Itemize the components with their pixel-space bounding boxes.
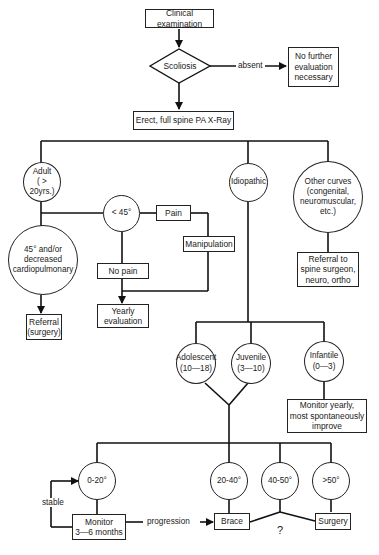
no-pain-box: No pain xyxy=(97,263,149,279)
monitor-yearly-box: Monitor yearly, most spontaneously impro… xyxy=(287,399,367,433)
surgery-box: Surgery xyxy=(315,513,351,530)
referral-spine-surgeon-box: Referral to spine surgeon, neuro, ortho xyxy=(297,252,359,287)
pain-box: Pain xyxy=(156,205,191,221)
brace-box: Brace xyxy=(214,513,250,530)
scoliosis-decision-label: Scoliosis xyxy=(152,61,208,71)
curve-0-20-circle: 0-20° xyxy=(78,462,116,500)
infantile-circle: Infantile (0—3) xyxy=(304,341,344,382)
lt45-circle: < 45° xyxy=(103,195,140,232)
clinical-examination-box: Clinical examination xyxy=(145,9,214,28)
monitor-3-6-months-box: Monitor 3—6 months xyxy=(72,514,126,540)
severe-curve-circle: 45° and/or decreased cardiopulmonary xyxy=(8,225,78,295)
manipulation-box: Manipulation xyxy=(183,236,235,252)
idiopathic-circle: Idiopathic xyxy=(229,163,268,202)
stable-label: stable xyxy=(40,498,66,507)
adolescent-circle: Adolescent (10—18) xyxy=(176,343,216,384)
referral-surgery-box: Referral (surgery) xyxy=(26,314,62,340)
curve-20-40-circle: 20-40° xyxy=(210,462,248,500)
other-curves-circle: Other curves (congenital, neuromuscular,… xyxy=(293,161,363,233)
question-mark: ? xyxy=(275,524,285,536)
no-further-evaluation-box: No further evaluation necessary xyxy=(288,47,339,87)
curve-40-50-circle: 40-50° xyxy=(261,462,299,500)
xray-box: Erect, full spine PA X-Ray xyxy=(133,111,234,130)
adult-circle: Adult ( > 20yrs.) xyxy=(23,162,61,202)
progression-label: progression xyxy=(145,517,192,526)
juvenile-circle: Juvenile (3—10) xyxy=(231,343,271,384)
curve-over-50-circle: >50° xyxy=(312,462,350,500)
yearly-evaluation-box: Yearly evaluation xyxy=(97,304,149,328)
absent-label: absent xyxy=(236,61,265,70)
